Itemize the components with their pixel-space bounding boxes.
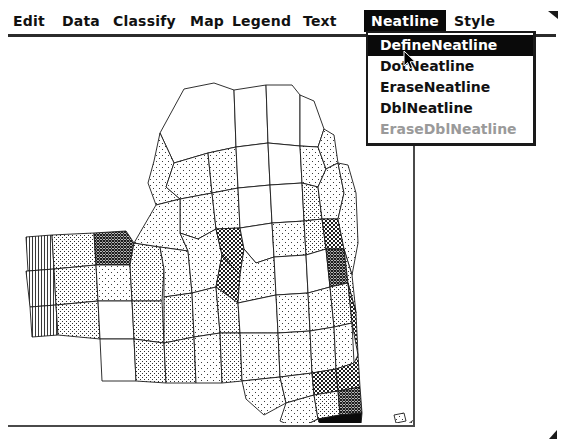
window-bottom-border	[18, 425, 415, 427]
menu-title-neatline[interactable]: Neatline	[364, 10, 446, 32]
menu-item-dot-neatline[interactable]: DotNeatline	[368, 56, 533, 77]
menu-title-style[interactable]: Style	[447, 10, 502, 32]
new-york-counties-map	[8, 43, 413, 423]
menu-title-classify[interactable]: Classify	[106, 10, 183, 32]
map-document-window	[8, 43, 415, 427]
menu-item-erase-neatline[interactable]: EraseNeatline	[368, 77, 533, 98]
map-canvas[interactable]	[8, 43, 413, 423]
menu-title-edit[interactable]: Edit	[6, 10, 52, 32]
menu-title-text[interactable]: Text	[296, 10, 344, 32]
menu-item-dbl-neatline[interactable]: DblNeatline	[368, 98, 533, 119]
county-polygons	[26, 83, 413, 423]
menu-item-define-neatline[interactable]: DefineNeatline	[368, 35, 533, 56]
menu-item-erase-dbl-neatline: EraseDblNeatline	[368, 119, 533, 140]
neatline-dropdown-menu: DefineNeatline DotNeatline EraseNeatline…	[366, 31, 536, 146]
menu-title-data[interactable]: Data	[55, 10, 107, 32]
menu-title-map[interactable]: Map	[183, 10, 231, 32]
menu-title-legend[interactable]: Legend	[225, 10, 298, 32]
corner-crop-mark-bottom-right	[545, 425, 558, 438]
